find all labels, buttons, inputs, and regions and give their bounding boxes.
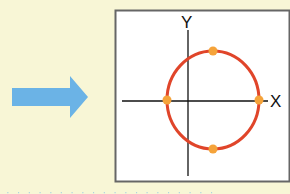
point-top	[209, 47, 218, 56]
right-arrow-icon	[12, 76, 88, 118]
point-right	[255, 96, 264, 105]
caption-text: · · · · · · · · · · · · · · · · · · · ·	[6, 186, 290, 194]
y-axis-label: Y	[181, 13, 192, 32]
graph-panel	[116, 11, 290, 182]
point-bottom	[209, 145, 218, 154]
diagram-canvas: Y X	[0, 0, 290, 194]
x-axis-label: X	[270, 92, 281, 111]
point-left	[163, 96, 172, 105]
